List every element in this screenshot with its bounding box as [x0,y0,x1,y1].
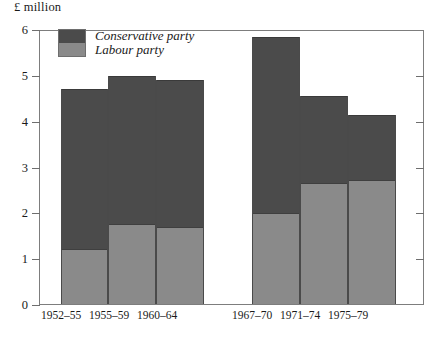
labour-swatch [59,43,85,56]
y-tick-mark-right-5 [416,76,424,77]
y-tick-label-3: 3 [4,162,28,175]
legend-label-conservative: Conservative party [95,29,194,43]
bar-1960-64 [156,80,204,304]
y-tick-mark-4 [32,122,40,123]
y-tick-mark-3 [32,168,40,169]
y-tick-mark-right-3 [416,168,424,169]
bar-segment-conservative [301,96,347,184]
y-tick-mark-right-2 [416,213,424,214]
bar-segment-labour [253,214,299,304]
y-tick-label-6: 6 [4,24,28,37]
y-tick-label-1: 1 [4,253,28,266]
y-tick-mark-right-1 [416,259,424,260]
y-tick-mark-right-4 [416,122,424,123]
x-tick-label-1971-74: 1971–74 [275,310,325,322]
bar-segment-labour [301,184,347,304]
bar-segment-labour [349,181,395,304]
x-tick-label-1967-70: 1967–70 [227,310,277,322]
y-tick-mark-5 [32,76,40,77]
legend-label-stack: Conservative party Labour party [95,29,194,56]
y-tick-label-2: 2 [4,207,28,220]
bar-1955-59 [108,76,156,304]
bar-segment-conservative [349,115,395,181]
bar-segment-conservative [157,80,203,228]
stacked-bar-chart: £ million [0,0,439,338]
y-tick-mark-2 [32,213,40,214]
y-tick-mark-6 [32,30,40,31]
legend-swatch-stack [58,29,86,57]
bar-segment-conservative [253,37,299,214]
legend-label-labour: Labour party [95,43,194,57]
bar-segment-labour [157,228,203,304]
x-tick-label-1955-59: 1955–59 [84,310,134,322]
y-tick-mark-1 [32,259,40,260]
bar-segment-conservative [62,89,107,250]
y-tick-mark-0 [32,305,40,306]
bar-1971-74 [300,96,348,304]
x-tick-label-1952-55: 1952–55 [36,310,86,322]
bar-segment-labour [109,225,155,304]
bar-segment-conservative [109,76,155,225]
bar-1952-55 [61,89,108,304]
bar-1975-79 [348,115,396,304]
plot-area [39,30,424,305]
bar-1967-70 [252,37,300,304]
y-tick-label-0: 0 [4,299,28,312]
chart-legend: Conservative party Labour party [58,29,194,57]
x-tick-label-1975-79: 1975–79 [323,310,373,322]
conservative-swatch [59,30,85,43]
y-axis-unit-label: £ million [14,0,61,15]
bar-segment-labour [62,250,107,304]
x-tick-label-1960-64: 1960–64 [132,310,182,322]
y-tick-label-4: 4 [4,116,28,129]
y-tick-label-5: 5 [4,70,28,83]
